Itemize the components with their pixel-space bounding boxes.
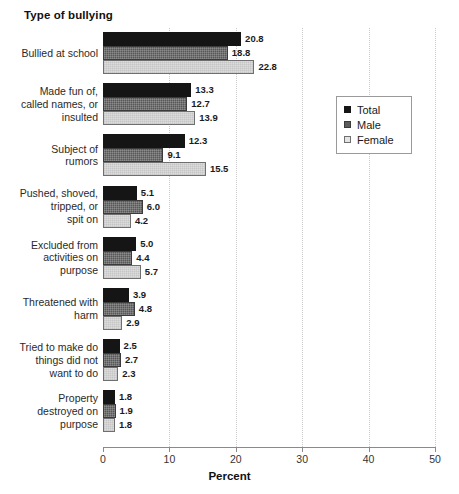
bar-value-label: 2.7 xyxy=(125,353,138,367)
category-label-line: Bullied at school xyxy=(0,47,98,60)
bar-male xyxy=(103,302,135,316)
bar-female xyxy=(103,418,115,432)
legend-label-total: Total xyxy=(357,104,380,116)
bar-value-label: 4.8 xyxy=(139,302,152,316)
bar-value-label: 2.9 xyxy=(126,316,139,330)
category-label-line: tripped, or xyxy=(0,200,98,213)
category-label-line: Property xyxy=(0,392,98,405)
category-label: Bullied at school xyxy=(0,47,98,60)
x-axis-line xyxy=(103,447,436,448)
plot-area: 20.818.822.813.312.713.912.39.115.55.16.… xyxy=(103,28,435,447)
bar-male xyxy=(103,251,132,265)
bar-value-label: 20.8 xyxy=(245,32,264,46)
bar-total xyxy=(103,83,191,97)
x-axis-tick xyxy=(435,447,436,452)
x-axis-tick xyxy=(169,447,170,452)
bar-value-label: 12.3 xyxy=(189,134,208,148)
gridline xyxy=(435,28,437,447)
legend-label-male: Male xyxy=(357,119,381,131)
bar-value-label: 5.1 xyxy=(141,186,154,200)
category-label-line: purpose xyxy=(0,418,98,431)
category-label-line: Tried to make do xyxy=(0,341,98,354)
bar-female xyxy=(103,162,206,176)
bar-total xyxy=(103,288,129,302)
category-label-line: insulted xyxy=(0,111,98,124)
x-axis-tick-label: 40 xyxy=(363,453,375,465)
bar-male xyxy=(103,46,228,60)
chart-legend: Total Male Female xyxy=(336,96,412,154)
bar-male xyxy=(103,97,187,111)
x-axis-tick-label: 30 xyxy=(296,453,308,465)
category-label-line: harm xyxy=(0,309,98,322)
category-label-line: rumors xyxy=(0,155,98,168)
legend-swatch-male-icon xyxy=(344,121,351,128)
gridline xyxy=(369,28,371,447)
category-label: Tried to make dothings did notwant to do xyxy=(0,341,98,379)
x-axis-tick-label: 20 xyxy=(230,453,242,465)
bar-total xyxy=(103,390,115,404)
x-axis-tick xyxy=(103,447,104,452)
bar-value-label: 1.8 xyxy=(119,390,132,404)
category-label-line: called names, or xyxy=(0,98,98,111)
category-label-line: activities on xyxy=(0,251,98,264)
bar-male xyxy=(103,148,163,162)
bar-value-label: 15.5 xyxy=(210,162,229,176)
legend-item-female[interactable]: Female xyxy=(344,132,405,147)
category-label-line: things did not xyxy=(0,354,98,367)
category-label: Excluded fromactivities onpurpose xyxy=(0,239,98,277)
category-label: Made fun of,called names, orinsulted xyxy=(0,85,98,123)
bar-male xyxy=(103,404,116,418)
legend-label-female: Female xyxy=(357,134,394,146)
legend-swatch-total-icon xyxy=(344,106,351,113)
bar-total xyxy=(103,237,136,251)
bar-female xyxy=(103,111,195,125)
bar-value-label: 2.5 xyxy=(124,339,137,353)
legend-swatch-female-icon xyxy=(344,136,351,143)
bar-chart: Type of bullying 20.818.822.813.312.713.… xyxy=(0,0,459,494)
category-label: Threatened withharm xyxy=(0,296,98,322)
x-axis-tick xyxy=(302,447,303,452)
x-axis-tick-label: 10 xyxy=(164,453,176,465)
bar-male xyxy=(103,353,121,367)
bar-value-label: 4.4 xyxy=(136,251,149,265)
bar-value-label: 9.1 xyxy=(167,148,180,162)
bar-total xyxy=(103,186,137,200)
gridline xyxy=(236,28,238,447)
bar-value-label: 13.9 xyxy=(199,111,218,125)
x-axis-tick-label: 0 xyxy=(100,453,106,465)
x-axis-tick xyxy=(369,447,370,452)
category-label-line: purpose xyxy=(0,264,98,277)
category-label-line: want to do xyxy=(0,367,98,380)
bar-value-label: 5.0 xyxy=(140,237,153,251)
category-label-line: Pushed, shoved, xyxy=(0,187,98,200)
category-label-line: destroyed on xyxy=(0,405,98,418)
category-label-line: spit on xyxy=(0,213,98,226)
category-label-line: Made fun of, xyxy=(0,85,98,98)
bar-value-label: 18.8 xyxy=(232,46,251,60)
bar-total xyxy=(103,32,241,46)
bar-value-label: 13.3 xyxy=(195,83,214,97)
legend-item-male[interactable]: Male xyxy=(344,117,405,132)
bar-value-label: 4.2 xyxy=(135,214,148,228)
bar-value-label: 5.7 xyxy=(145,265,158,279)
bar-female xyxy=(103,214,131,228)
bar-value-label: 3.9 xyxy=(133,288,146,302)
chart-title: Type of bullying xyxy=(24,9,113,21)
bar-value-label: 22.8 xyxy=(258,60,277,74)
legend-item-total[interactable]: Total xyxy=(344,102,405,117)
bar-value-label: 2.3 xyxy=(122,367,135,381)
category-label-line: Subject of xyxy=(0,143,98,156)
bar-total xyxy=(103,339,120,353)
category-label-line: Threatened with xyxy=(0,296,98,309)
bar-value-label: 6.0 xyxy=(147,200,160,214)
x-axis-tick-label: 50 xyxy=(429,453,441,465)
category-label: Pushed, shoved,tripped, orspit on xyxy=(0,187,98,225)
category-label: Propertydestroyed onpurpose xyxy=(0,392,98,430)
bar-male xyxy=(103,200,143,214)
bar-female xyxy=(103,265,141,279)
x-axis-tick xyxy=(236,447,237,452)
bar-value-label: 1.9 xyxy=(120,404,133,418)
bar-value-label: 12.7 xyxy=(191,97,210,111)
category-label: Subject ofrumors xyxy=(0,143,98,169)
x-axis-title: Percent xyxy=(0,470,459,482)
